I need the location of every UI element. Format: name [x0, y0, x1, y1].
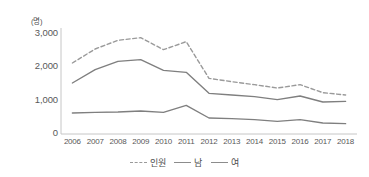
series-line-여 — [72, 105, 345, 123]
legend-item-female: 여 — [211, 156, 239, 169]
chart-legend: 인원 남 여 — [0, 156, 369, 169]
series-line-인원 — [72, 38, 345, 95]
plot-area — [0, 0, 369, 177]
legend-item-male: 남 — [174, 156, 202, 169]
legend-swatch-dashed-icon — [130, 162, 147, 163]
legend-item-total: 인원 — [130, 156, 166, 169]
legend-swatch-solid-icon — [211, 162, 228, 163]
series-line-남 — [72, 60, 345, 102]
series-layer — [72, 38, 345, 124]
line-chart: (명) 3,000 2,000 1,000 0 2006200720082009… — [0, 0, 369, 177]
legend-label-total: 인원 — [150, 156, 166, 169]
legend-label-male: 남 — [194, 156, 202, 169]
legend-swatch-solid-icon — [174, 162, 191, 163]
x-axis-tick-2018: 2018 — [332, 137, 360, 146]
legend-label-female: 여 — [231, 156, 239, 169]
